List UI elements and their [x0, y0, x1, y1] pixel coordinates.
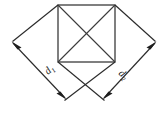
dimension-labels: d 1 d 2 — [42, 62, 131, 83]
d2-arrowhead-upper-icon — [147, 42, 157, 50]
edge-lower-left-line — [58, 62, 105, 101]
edge-upper-right-line — [115, 5, 156, 42]
d1-dimension-line — [13, 43, 65, 98]
inner-square-group — [58, 5, 115, 62]
d2-arrowhead-lower-icon — [103, 92, 113, 100]
d1-arrowhead-lower-icon — [57, 92, 67, 100]
diagram-canvas: d 1 d 2 — [0, 0, 167, 113]
d2-dimension-group — [103, 42, 157, 100]
construction-lines — [13, 5, 156, 101]
d1-arrowhead-upper-icon — [12, 42, 22, 50]
d2-dimension-line — [104, 43, 155, 98]
geometry-figure: d 1 d 2 — [0, 0, 167, 113]
edge-upper-left-line — [13, 5, 59, 42]
